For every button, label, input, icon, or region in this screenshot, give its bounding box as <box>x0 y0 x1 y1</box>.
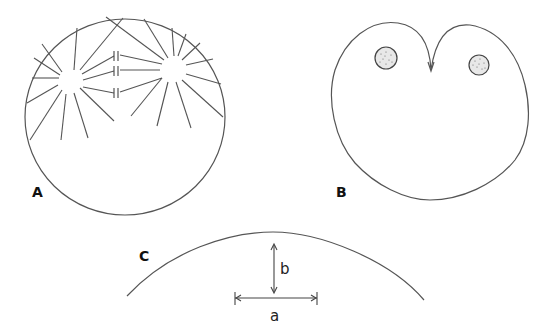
panel-a-spindle <box>82 51 162 98</box>
panel-c-chord-label: a <box>270 307 279 325</box>
panel-b-nucleus-right <box>469 55 489 75</box>
panel-a-right-aster <box>106 17 223 128</box>
cell-division-figure: A B b a C <box>0 0 551 332</box>
panel-a-left-aster <box>27 18 123 140</box>
panel-c-label: C <box>139 248 149 264</box>
panel-c-height-label: b <box>280 260 290 278</box>
panel-a: A <box>25 17 225 215</box>
panel-b-nucleus-left <box>375 47 397 69</box>
panel-b-label: B <box>336 184 347 200</box>
panel-c: b a C <box>127 232 424 325</box>
panel-b-cell-outline <box>332 23 529 200</box>
panel-b: B <box>332 23 529 200</box>
panel-a-label: A <box>32 184 43 200</box>
